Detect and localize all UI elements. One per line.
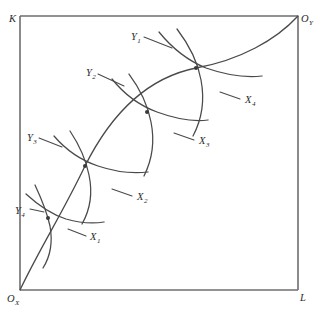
isoquant-y1	[159, 32, 262, 77]
curve-label-group-y: Y1 Y2 Y3 Y4	[15, 31, 141, 219]
box-frame	[20, 16, 298, 290]
curve-label-x1-main: X	[89, 231, 97, 242]
isoquant-y4	[26, 194, 104, 223]
curve-label-y2: Y2	[86, 67, 96, 81]
curve-label-x2-sub: 2	[144, 197, 148, 205]
leader-line-group	[30, 37, 240, 236]
curve-label-x4-main: X	[244, 94, 252, 105]
isoquant-x2	[70, 131, 91, 224]
isoquant-group-x	[35, 29, 203, 268]
curve-label-y4-sub: 4	[21, 211, 25, 219]
leader-line-y3	[39, 138, 62, 147]
leader-line-x4	[220, 92, 240, 99]
curve-label-x2-main: X	[136, 191, 144, 202]
curve-label-y2-sub: 2	[92, 73, 96, 81]
origin-label-x: OX	[7, 293, 20, 307]
tangency-point-4	[194, 66, 198, 70]
curve-label-x2: X2	[136, 191, 148, 205]
curve-label-x3-main: X	[198, 135, 206, 146]
curve-label-y3: Y3	[27, 132, 37, 146]
isoquant-y2	[112, 79, 208, 121]
origin-label-x-main: O	[7, 293, 15, 304]
leader-line-y2	[98, 74, 124, 86]
leader-line-x3	[174, 133, 194, 140]
origin-label-y-main: O	[301, 13, 309, 24]
curve-label-x1-sub: 1	[97, 237, 101, 245]
curve-label-y1: Y1	[131, 31, 141, 45]
tangency-point-1	[46, 216, 50, 220]
edgeworth-box-diagram: K L OX OY Y1 Y2 Y3 Y4	[0, 0, 320, 314]
curve-label-x3: X3	[198, 135, 210, 149]
contract-curve	[20, 16, 298, 290]
tangency-point-2	[83, 164, 87, 168]
edgeworth-box-figure: K L OX OY Y1 Y2 Y3 Y4	[0, 0, 320, 314]
isoquant-x3	[129, 74, 153, 176]
curve-label-x3-sub: 3	[205, 141, 210, 149]
leader-line-x1	[68, 229, 86, 236]
leader-line-y4	[30, 209, 44, 212]
axis-label-group: K L OX OY	[7, 13, 314, 307]
leader-line-x2	[112, 189, 132, 196]
curve-label-y3-sub: 3	[32, 138, 37, 146]
curve-label-x4: X4	[244, 94, 256, 108]
curve-label-y1-sub: 1	[137, 37, 141, 45]
origin-label-x-sub: X	[14, 299, 20, 307]
isoquant-y3	[54, 136, 148, 173]
origin-label-y: OY	[301, 13, 314, 27]
origin-label-y-sub: Y	[309, 19, 314, 27]
contract-curve-group	[20, 16, 298, 290]
curve-label-x4-sub: 4	[252, 100, 256, 108]
axis-label-capital: K	[8, 13, 17, 24]
curve-label-x1: X1	[89, 231, 100, 245]
tangency-point-3	[145, 110, 149, 114]
axis-label-labor: L	[299, 292, 306, 303]
